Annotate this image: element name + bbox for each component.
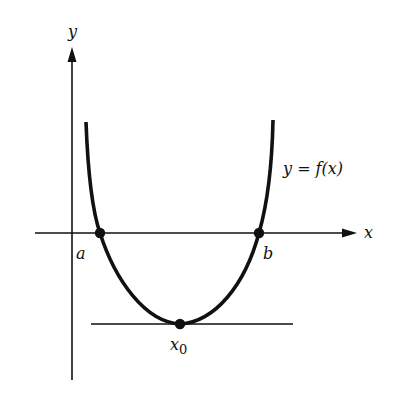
x-axis xyxy=(35,229,357,238)
point-b xyxy=(254,228,264,238)
function-diagram: y x a b x0 y = f(x) xyxy=(0,0,396,395)
y-axis xyxy=(68,47,77,380)
y-axis-arrow-icon xyxy=(68,47,77,62)
point-x0 xyxy=(175,319,185,329)
x-axis-arrow-icon xyxy=(342,229,357,238)
y-axis-label: y xyxy=(67,22,78,41)
x-axis-label: x xyxy=(364,223,373,242)
point-a-label: a xyxy=(76,244,86,263)
point-x0-label: x0 xyxy=(170,335,187,357)
point-a xyxy=(95,228,105,238)
point-b-label: b xyxy=(263,244,273,263)
function-curve xyxy=(86,120,273,324)
curve-label: y = f(x) xyxy=(282,159,343,178)
